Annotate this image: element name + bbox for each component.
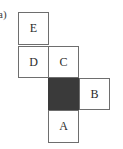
net-square-d: D [18,46,49,79]
net-square-a: A [48,110,79,143]
net-square-shaded [48,78,79,111]
net-square-b-label: B [90,88,98,100]
net-square-a-label: A [59,120,68,132]
net-square-b: B [79,78,110,111]
part-label: a) [0,8,7,20]
net-square-c-label: C [59,56,67,68]
net-square-e-label: E [30,22,37,34]
cube-net-figure: a) E D C B A [0,0,123,149]
net-square-c: C [48,46,79,79]
net-square-d-label: D [29,56,38,68]
net-square-e: E [18,12,49,45]
net-grid: E D C B A [18,12,111,143]
